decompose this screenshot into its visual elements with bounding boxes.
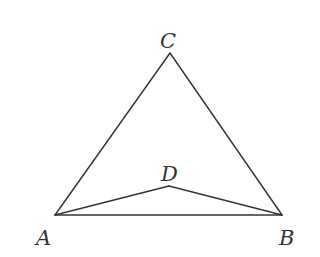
- vertex-label-b: B: [278, 226, 294, 250]
- diagram-canvas: C D A B: [0, 0, 320, 257]
- vertex-label-d: D: [160, 162, 178, 186]
- vertex-label-c: C: [160, 29, 176, 53]
- vertex-label-a: A: [34, 226, 51, 250]
- triangle-diagram: C D A B: [0, 0, 320, 257]
